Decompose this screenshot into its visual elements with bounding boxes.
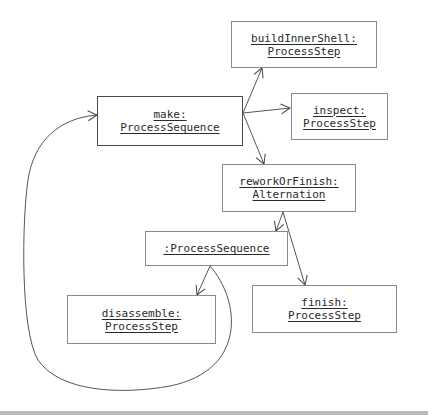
node-make-type: ProcessSequence bbox=[120, 121, 219, 134]
node-make[interactable]: make: ProcessSequence bbox=[97, 96, 243, 146]
edge-processSequence-disassemble bbox=[197, 266, 210, 295]
edge-make-buildInnerShell bbox=[243, 68, 262, 113]
node-finish-name: finish: bbox=[301, 296, 347, 309]
edge-make-inspect bbox=[243, 108, 290, 113]
node-reworkOrFinish[interactable]: reworkOrFinish: Alternation bbox=[222, 164, 356, 212]
node-inspect-type: ProcessStep bbox=[303, 117, 376, 130]
node-buildInnerShell-name: buildInnerShell: bbox=[251, 32, 357, 45]
node-processSequence-name: :ProcessSequence bbox=[164, 242, 270, 255]
node-buildInnerShell-type: ProcessStep bbox=[268, 45, 341, 58]
node-processSequence[interactable]: :ProcessSequence bbox=[145, 231, 288, 266]
node-buildInnerShell[interactable]: buildInnerShell: ProcessStep bbox=[231, 21, 377, 68]
node-finish-type: ProcessStep bbox=[288, 309, 361, 322]
bottom-divider bbox=[0, 411, 428, 415]
node-disassemble-name: disassemble: bbox=[102, 307, 181, 320]
node-disassemble-type: ProcessStep bbox=[105, 320, 178, 333]
node-inspect-name: inspect: bbox=[313, 104, 366, 117]
edge-reworkOrFinish-processSequence bbox=[276, 212, 283, 231]
edge-make-reworkOrFinish bbox=[243, 113, 264, 164]
node-disassemble[interactable]: disassemble: ProcessStep bbox=[67, 295, 216, 344]
node-reworkOrFinish-type: Alternation bbox=[253, 188, 326, 201]
node-finish[interactable]: finish: ProcessStep bbox=[252, 285, 397, 333]
node-inspect[interactable]: inspect: ProcessStep bbox=[291, 93, 388, 140]
object-diagram: make: ProcessSequence buildInnerShell: P… bbox=[0, 0, 433, 418]
node-make-name: make: bbox=[153, 108, 186, 121]
node-reworkOrFinish-name: reworkOrFinish: bbox=[239, 175, 338, 188]
